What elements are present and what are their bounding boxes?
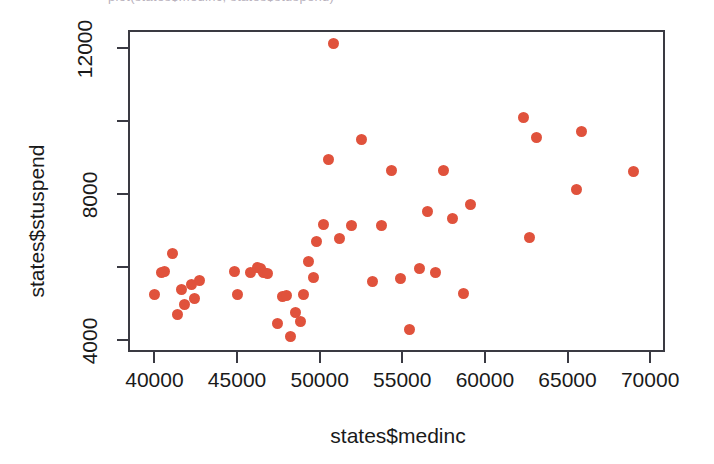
data-point [229,266,240,277]
data-point [189,293,200,304]
y-axis-tick-label: 12000 [73,19,97,77]
plot-frame [128,30,665,352]
data-point [232,289,243,300]
y-axis-tick [117,47,128,49]
x-axis-tick [401,352,403,363]
y-axis-tick [117,266,128,268]
data-point [176,284,187,295]
data-point [346,220,357,231]
data-point [303,256,314,267]
data-point [295,316,306,327]
x-axis-tick-label: 40000 [125,368,183,392]
data-point [159,266,170,277]
y-axis-tick [117,339,128,341]
x-axis-tick [567,352,569,363]
y-axis-tick [117,120,128,122]
truncated-caption-text: plot(states$medinc, states$stuspend) [108,0,334,4]
data-point [149,289,160,300]
scatter-plot-figure: plot(states$medinc, states$stuspend) sta… [0,0,714,464]
x-axis-tick [236,352,238,363]
data-point [628,166,639,177]
data-point [298,289,309,300]
data-point [272,318,283,329]
data-point [422,206,433,217]
data-point [386,165,397,176]
x-axis-tick [484,352,486,363]
data-point [576,126,587,137]
data-point [334,233,345,244]
x-axis-title: states$medinc [128,424,668,448]
x-axis-tick-label: 70000 [621,368,679,392]
data-point [328,38,339,49]
x-axis-tick-label: 60000 [456,368,514,392]
data-point [438,165,449,176]
data-point [430,267,441,278]
y-axis-tick-label: 8000 [79,171,103,218]
x-axis-tick-label: 50000 [290,368,348,392]
data-point [262,268,273,279]
y-axis-tick [117,193,128,195]
data-point [376,220,387,231]
data-point [395,273,406,284]
data-point [311,236,322,247]
data-point [518,112,529,123]
data-points-layer [130,32,663,350]
x-axis-tick-label: 45000 [208,368,266,392]
data-point [531,132,542,143]
data-point [318,219,329,230]
data-point [447,213,458,224]
data-point [524,232,535,243]
data-point [465,199,476,210]
data-point [172,309,183,320]
truncated-caption-strip: plot(states$medinc, states$stuspend) [0,0,714,7]
x-axis-tick [649,352,651,363]
data-point [356,134,367,145]
y-axis-tick-label: 4000 [79,318,103,365]
x-axis-tick [319,352,321,363]
data-point [194,275,205,286]
x-axis-tick-label: 65000 [538,368,596,392]
data-point [285,331,296,342]
data-point [404,324,415,335]
data-point [281,290,292,301]
data-point [179,299,190,310]
data-point [167,248,178,259]
data-point [367,276,378,287]
data-point [458,288,469,299]
data-point [308,272,319,283]
y-axis-tick-label-wrap: 8000 [0,183,114,205]
data-point [414,263,425,274]
data-point [323,154,334,165]
y-axis-tick-label-wrap: 12000 [0,37,114,59]
x-axis-tick-label: 55000 [373,368,431,392]
y-axis-tick-label-wrap: 4000 [0,329,114,351]
x-axis-tick [153,352,155,363]
data-point [571,184,582,195]
